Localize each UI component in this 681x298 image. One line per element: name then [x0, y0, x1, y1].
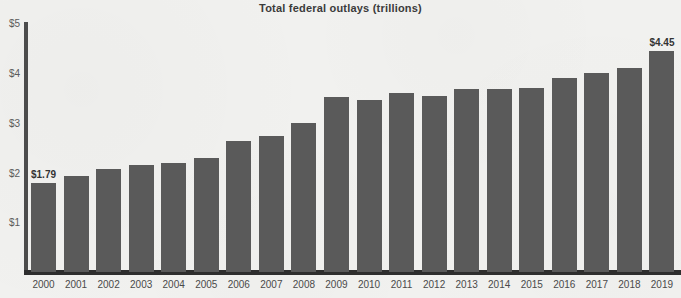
bar-2000[interactable]: [31, 183, 56, 272]
bar-2002[interactable]: [96, 169, 121, 272]
x-axis-tick-2019: 2019: [651, 279, 673, 290]
x-axis-tick-2012: 2012: [423, 279, 445, 290]
y-axis-tick-2: $2: [0, 167, 20, 178]
x-axis-tick-2007: 2007: [260, 279, 282, 290]
x-axis-tick-2011: 2011: [391, 279, 413, 290]
x-axis-tick-2008: 2008: [293, 279, 315, 290]
bar-2001[interactable]: [64, 176, 89, 272]
x-axis-tick-2016: 2016: [553, 279, 575, 290]
bar-2006[interactable]: [226, 141, 251, 272]
y-axis-tick-4: $4: [0, 68, 20, 79]
bar-2004[interactable]: [161, 163, 186, 272]
bar-2013[interactable]: [454, 89, 479, 272]
x-axis-tick-2018: 2018: [618, 279, 640, 290]
bar-2014[interactable]: [487, 89, 512, 272]
x-axis-tick-2000: 2000: [32, 279, 54, 290]
x-axis-tick-2017: 2017: [586, 279, 608, 290]
y-axis-tick-1: $1: [0, 217, 20, 228]
bar-2003[interactable]: [129, 165, 154, 272]
x-axis-line: [24, 270, 681, 275]
x-axis-tick-2015: 2015: [521, 279, 543, 290]
chart-title: Total federal outlays (trillions): [0, 2, 681, 14]
bar-2012[interactable]: [422, 96, 447, 272]
y-axis-tick-5: $5: [0, 18, 20, 29]
x-axis-tick-2009: 2009: [325, 279, 347, 290]
bar-2007[interactable]: [259, 136, 284, 272]
bar-value-label-2000: $1.79: [31, 169, 56, 180]
x-axis-tick-2014: 2014: [488, 279, 510, 290]
bar-2010[interactable]: [357, 100, 382, 272]
x-axis-tick-2003: 2003: [130, 279, 152, 290]
bar-2015[interactable]: [519, 88, 544, 272]
bar-2019[interactable]: [649, 51, 674, 272]
x-axis-tick-2001: 2001: [65, 279, 87, 290]
bar-2005[interactable]: [194, 158, 219, 272]
bar-2017[interactable]: [584, 73, 609, 272]
x-axis-tick-2005: 2005: [195, 279, 217, 290]
x-axis-tick-2010: 2010: [358, 279, 380, 290]
x-axis-tick-2004: 2004: [163, 279, 185, 290]
bar-2008[interactable]: [291, 123, 316, 272]
bar-value-label-2019: $4.45: [649, 37, 674, 48]
bar-2018[interactable]: [617, 68, 642, 272]
bar-2011[interactable]: [389, 93, 414, 272]
bars-layer: [28, 22, 679, 270]
x-axis-tick-2002: 2002: [97, 279, 119, 290]
bar-2009[interactable]: [324, 97, 349, 272]
x-axis-tick-2013: 2013: [456, 279, 478, 290]
x-axis-tick-2006: 2006: [228, 279, 250, 290]
bar-2016[interactable]: [552, 78, 577, 272]
y-axis-tick-3: $3: [0, 117, 20, 128]
bar-chart: Total federal outlays (trillions) $5$4$3…: [0, 0, 681, 298]
